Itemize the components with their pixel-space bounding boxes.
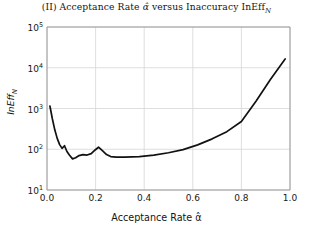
- x-axis-label: Acceptance Rate α̂: [0, 212, 313, 223]
- y-axis-label-wrapper: InEffN: [0, 67, 19, 137]
- ytick-mantissa-3: 10: [27, 105, 38, 115]
- ytick-exponent-1: 1: [39, 184, 43, 192]
- ytick-label-5: 105: [17, 21, 43, 33]
- ytick-exponent-4: 4: [39, 62, 43, 70]
- y-axis-label: InEffN: [5, 89, 16, 115]
- y-axis-label-subscript: N: [11, 89, 19, 94]
- chart-figure: (II) Acceptance Rate α̂ versus Inaccurac…: [0, 0, 313, 236]
- y-axis-label-text: InEff: [5, 94, 16, 115]
- ytick-label-2: 102: [17, 143, 43, 155]
- xtick-label-2: 0.2: [80, 193, 112, 203]
- xtick-label-5: 0.8: [225, 193, 257, 203]
- ytick-mantissa-2: 10: [27, 145, 38, 155]
- ytick-mantissa-5: 10: [27, 23, 38, 33]
- ytick-exponent-2: 2: [39, 143, 43, 151]
- ytick-exponent-5: 5: [39, 21, 43, 29]
- ytick-label-3: 103: [17, 103, 43, 115]
- xtick-label-4: 0.6: [177, 193, 209, 203]
- xtick-label-1: 0.0: [31, 193, 63, 203]
- ytick-exponent-3: 3: [39, 103, 43, 111]
- x-axis-label-text: Acceptance Rate: [111, 212, 195, 223]
- xtick-label-3: 0.4: [128, 193, 160, 203]
- ytick-label-4: 104: [17, 62, 43, 74]
- ytick-mantissa-4: 10: [27, 64, 38, 74]
- x-axis-label-alpha-symbol: α̂: [195, 212, 201, 223]
- xtick-label-6: 1.0: [274, 193, 306, 203]
